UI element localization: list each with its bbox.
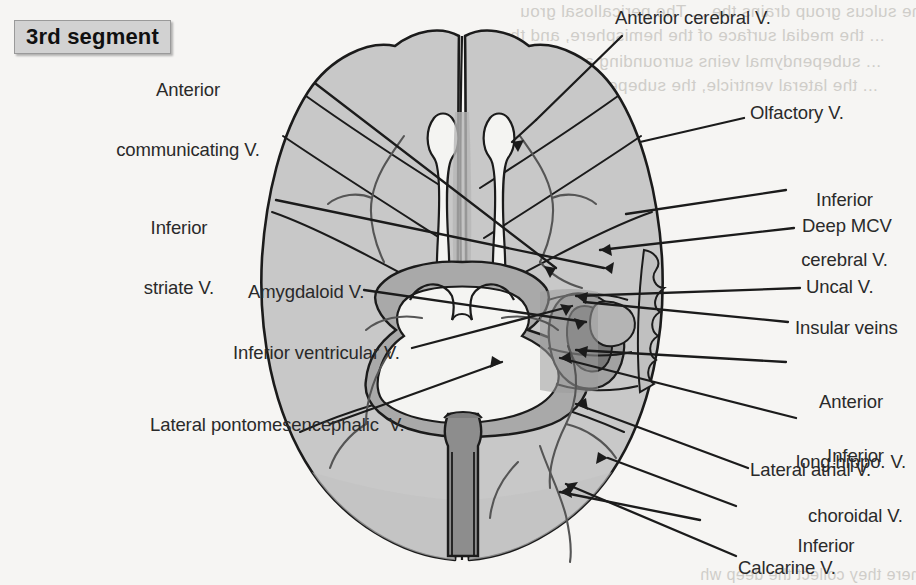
leader-inferior-temporo-occipital-v (608, 458, 736, 506)
label-inferior-striate-v-line2: striate V. (120, 278, 238, 298)
label-amygdaloid-v: Amygdaloid V. (248, 282, 364, 302)
label-lateral-atrial-v: Lateral atrial V. (750, 460, 871, 480)
label-anterior-communicating-v: Anterior communicating V. (88, 40, 288, 200)
insula-slab (540, 289, 598, 393)
brainstem (444, 412, 482, 556)
label-inferior-striate-v-line1: Inferior (120, 218, 238, 238)
leader-olfactory-v (640, 118, 744, 142)
label-inferior-striate-v: Inferior striate V. (120, 178, 238, 338)
venous-anatomy-figure: The sulcus group drains the ... The peri… (0, 0, 916, 585)
label-uncal-v: Uncal V. (806, 277, 873, 297)
label-inferior-cerebral-v-line2: cerebral V. (782, 250, 907, 270)
leader-calcarine-v (566, 484, 736, 556)
label-lateral-pontomesencephalic-v: Lateral pontomesencephalic V. (150, 415, 404, 435)
label-inferior-cerebral-v-line1: Inferior (782, 190, 907, 210)
label-calcarine-v: Calcarine V. (738, 558, 836, 578)
label-insular-veins: Insular veins (795, 318, 898, 338)
label-anterior-communicating-v-line1: Anterior (88, 80, 288, 100)
label-inferior-temporo-occipital-v-line1: Inferior (736, 536, 916, 556)
label-deep-mcv: Deep MCV (802, 216, 892, 236)
label-anterior-cerebral-v: Anterior cerebral V. (615, 8, 771, 28)
label-inferior-ventricular-v: Inferior ventricular V. (233, 343, 400, 363)
label-olfactory-v: Olfactory V. (750, 103, 844, 123)
label-anterior-communicating-v-line2: communicating V. (88, 140, 288, 160)
